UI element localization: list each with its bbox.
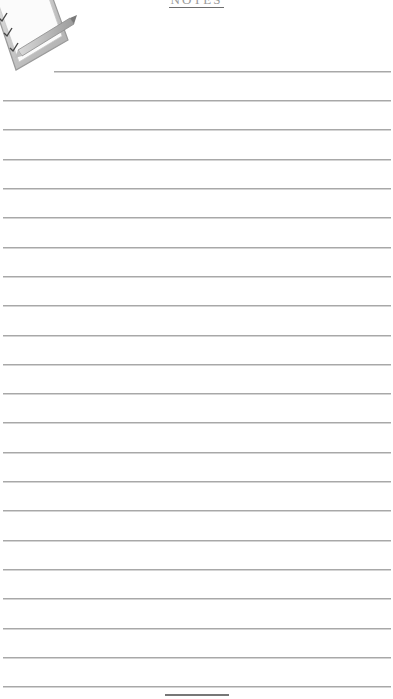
ruled-line (3, 540, 391, 542)
page-title: NOTES (169, 0, 225, 8)
ruled-line (3, 159, 391, 161)
ruled-line (3, 305, 391, 307)
notes-page: NOTES (0, 0, 393, 699)
ruled-line (3, 188, 391, 190)
ruled-line (3, 129, 391, 131)
ruled-line (3, 686, 391, 688)
ruled-line (3, 510, 391, 512)
ruled-line (3, 364, 391, 366)
ruled-line (3, 335, 391, 337)
clipboard-checklist-pencil-icon (0, 0, 82, 78)
ruled-line (3, 657, 391, 659)
ruled-line (3, 422, 391, 424)
ruled-line (3, 569, 391, 571)
ruled-line (3, 276, 391, 278)
ruled-line (3, 481, 391, 483)
ruled-line (3, 628, 391, 630)
ruled-line (3, 217, 391, 219)
ruled-line (3, 100, 391, 102)
ruled-line (3, 247, 391, 249)
ruled-line (54, 71, 391, 73)
ruled-line (3, 598, 391, 600)
footer-divider (165, 694, 229, 696)
ruled-line (3, 393, 391, 395)
ruled-line (3, 452, 391, 454)
